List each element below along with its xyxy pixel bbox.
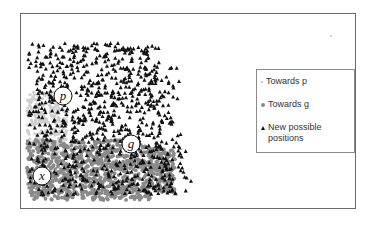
triangle-icon [261, 126, 265, 130]
legend: Towards p Towards g New possible positio… [256, 69, 355, 153]
marker-p: p [54, 87, 72, 105]
legend-label: Towards g [268, 99, 309, 110]
legend-label: Towards p [266, 76, 307, 87]
legend-item-new-positions: New possible positions [261, 122, 341, 144]
svg-text:p: p [59, 88, 67, 103]
marker-g: g [122, 135, 140, 153]
gray-dot-icon [261, 103, 265, 107]
noise-speck [330, 35, 332, 37]
light-dot-icon [261, 81, 263, 83]
legend-item-towards-g: Towards g [261, 99, 309, 110]
marker-x: x [33, 167, 51, 185]
legend-label: New possible positions [268, 122, 341, 144]
svg-text:g: g [128, 136, 135, 151]
legend-item-towards-p: Towards p [261, 76, 307, 87]
svg-text:x: x [38, 168, 45, 183]
